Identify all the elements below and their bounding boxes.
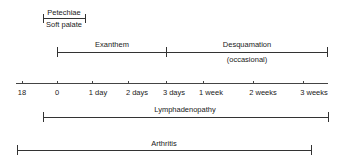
occasional-label: (occasional) [227,55,267,64]
exanthem-line [57,52,166,53]
exanthem-start-tick [57,47,58,57]
axis-tick [166,81,167,84]
axis-tick [303,81,304,84]
axis-tick-label: 0 [55,88,59,97]
axis-tick [203,81,204,84]
axis-tick [253,81,254,84]
lymphadenopathy-start-tick [43,112,44,122]
petechiae-start-tick [43,14,44,23]
arthritis-end-tick [311,145,312,155]
petechiae-label: Petechiae [47,8,80,17]
desquamation-label: Desquamation [223,40,271,49]
desquamation-start-tick [166,47,167,57]
axis-tick-label: 18 [18,88,26,97]
axis-tick [92,81,93,84]
lymphadenopathy-line [43,117,328,118]
lymphadenopathy-label: Lymphadenopathy [154,105,215,114]
arthritis-label: Arthritis [151,139,176,148]
axis-tick-label: 2 weeks [249,88,277,97]
desquamation-end-tick [327,47,328,57]
axis-tick-label: 1 week [199,88,223,97]
axis-tick [57,81,58,84]
axis-tick-label: 3 weeks [300,88,328,97]
arthritis-line [17,150,311,151]
petechiae-line [43,18,85,19]
axis-tick-label: 1 day [89,88,107,97]
axis-line [16,83,328,84]
arthritis-start-tick [17,145,18,155]
axis-tick-label: 3 days [163,88,185,97]
soft-palate-label: Soft palate [46,20,82,29]
axis-tick [22,81,23,84]
axis-tick-label: 2 days [126,88,148,97]
exanthem-label: Exanthem [95,40,129,49]
lymphadenopathy-end-tick [328,112,329,122]
petechiae-end-tick [85,14,86,23]
desquamation-line [166,52,327,53]
axis-tick [128,81,129,84]
